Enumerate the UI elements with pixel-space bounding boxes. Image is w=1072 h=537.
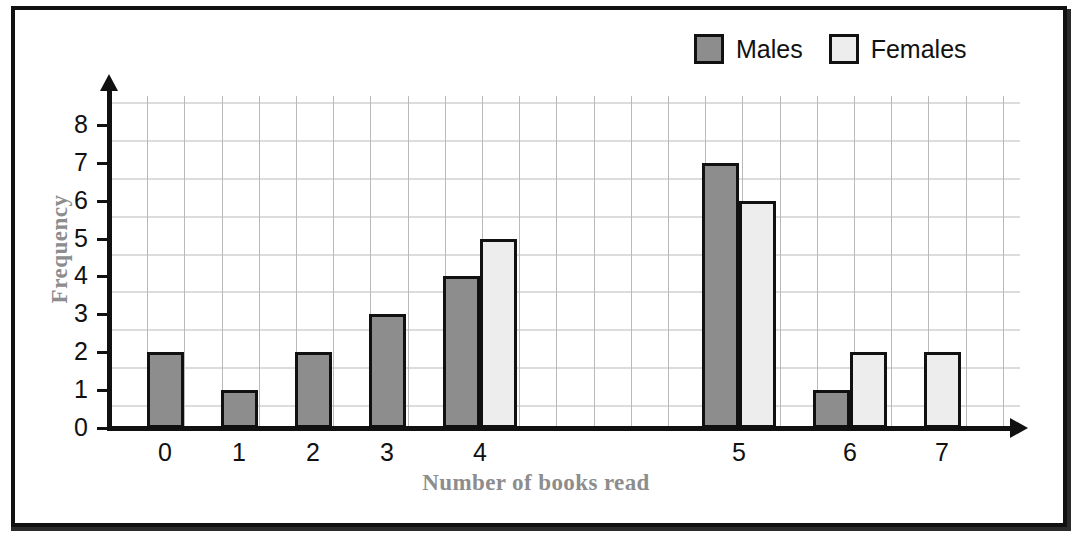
y-tick-mark-1 (97, 389, 111, 392)
legend-entry-females: Females (829, 34, 967, 64)
frame-bottom-edge (11, 527, 1071, 531)
y-tick-mark-5 (97, 238, 111, 241)
bar-males-3 (369, 314, 406, 428)
x-tick-label-1: 1 (219, 440, 259, 465)
y-axis-title: Frequency (47, 169, 73, 329)
chart-screenshot: Males Females 876543210 01234567 Frequen… (0, 0, 1072, 537)
bar-males-0 (147, 352, 184, 428)
y-tick-mark-0 (97, 427, 111, 430)
y-tick-label-0: 0 (58, 415, 88, 440)
bar-females-7 (924, 352, 961, 428)
legend-label-males: Males (736, 37, 803, 62)
y-tick-label-2: 2 (58, 339, 88, 364)
y-tick-mark-7 (97, 162, 111, 165)
x-tick-label-3: 3 (367, 440, 407, 465)
bar-females-6 (850, 352, 887, 428)
y-tick-mark-2 (97, 351, 111, 354)
y-tick-label-1: 1 (58, 377, 88, 402)
y-tick-mark-3 (97, 313, 111, 316)
legend-label-females: Females (871, 37, 967, 62)
y-tick-mark-4 (97, 275, 111, 278)
frame-right-edge (1067, 9, 1071, 531)
x-tick-label-0: 0 (145, 440, 185, 465)
x-tick-label-7: 7 (922, 440, 962, 465)
y-tick-mark-8 (97, 124, 111, 127)
x-tick-label-5: 5 (719, 440, 759, 465)
bar-males-4 (443, 276, 480, 428)
bar-females-4 (480, 239, 517, 429)
bar-females-5 (739, 201, 776, 428)
bar-males-5 (702, 163, 739, 428)
y-axis-arrow-icon (100, 74, 118, 91)
females-swatch-icon (829, 34, 859, 64)
males-swatch-icon (694, 34, 724, 64)
x-axis-title: Number of books read (0, 470, 1072, 496)
y-tick-label-8: 8 (58, 112, 88, 137)
x-axis-line (107, 426, 1013, 431)
x-tick-label-4: 4 (460, 440, 500, 465)
x-tick-label-2: 2 (293, 440, 333, 465)
bar-males-2 (295, 352, 332, 428)
x-tick-label-6: 6 (830, 440, 870, 465)
bar-males-1 (221, 390, 258, 428)
y-tick-mark-6 (97, 200, 111, 203)
plot-canvas (110, 96, 1020, 428)
bar-males-6 (813, 390, 850, 428)
legend-entry-males: Males (694, 34, 803, 64)
chart-legend: Males Females (694, 34, 967, 64)
x-axis-arrow-icon (1010, 418, 1028, 438)
y-axis-line (107, 86, 112, 431)
